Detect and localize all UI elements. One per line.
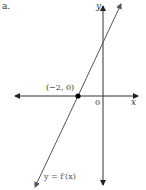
point-label: (−2, 0)	[46, 84, 74, 92]
graph-canvas	[0, 0, 146, 190]
origin-label: 0	[95, 99, 100, 107]
x-axis-label: x	[131, 98, 136, 107]
function-label: y = f′(x)	[44, 173, 76, 181]
y-axis-label: y	[96, 2, 101, 11]
part-label: a.	[2, 2, 10, 11]
x-intercept-point	[75, 93, 80, 98]
